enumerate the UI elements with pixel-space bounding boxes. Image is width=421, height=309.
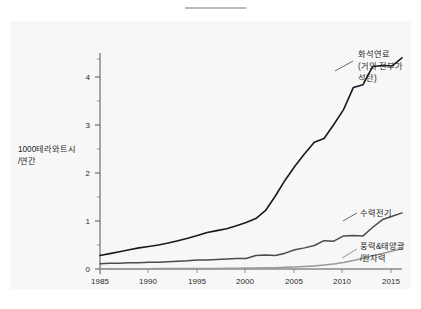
y-tick-label-3: 3: [86, 121, 91, 130]
y-tick-label-1: 1: [86, 217, 91, 226]
leader-line-wind-solar: [342, 249, 357, 258]
annotation-fossil-fuel: 화석연료 (거의 전부가 석탄): [358, 49, 403, 83]
series-line-fossil-fuel: [100, 58, 402, 256]
leader-line-hydroelectric: [343, 213, 357, 221]
chart-series-group: [100, 58, 402, 269]
x-tick-label-1990: 1990: [139, 277, 157, 286]
y-axis-title: 1000테라와트시 /연간: [18, 144, 76, 166]
x-axis-tick-labels: 1985 1990 1995 2000 2005 2010 2015: [91, 277, 400, 286]
line-chart: 0 1 2 3 4 1985 1990 1995 2000: [10, 21, 411, 289]
x-tick-label-1985: 1985: [91, 277, 109, 286]
chart-figure-panel: 0 1 2 3 4 1985 1990 1995 2000: [10, 21, 411, 289]
y-axis-title-line2: /연간: [18, 156, 36, 166]
annotation-hydroelectric: 수력전기: [360, 208, 392, 218]
y-tick-label-2: 2: [86, 169, 91, 178]
x-tick-label-2005: 2005: [285, 277, 303, 286]
y-tick-label-0: 0: [86, 265, 91, 274]
leader-line-fossil-fuel: [335, 61, 353, 71]
x-tick-label-2010: 2010: [333, 277, 351, 286]
annotation-hydroelectric-line1: 수력전기: [360, 208, 392, 218]
annotation-wind-solar-line2: /원자력: [360, 253, 386, 263]
series-line-wind-solar-nuclear: [100, 249, 402, 269]
annotation-wind-solar-nuclear: 풍력&태양광 /원자력: [360, 241, 405, 263]
x-tick-label-2015: 2015: [382, 277, 400, 286]
y-axis-major-ticks: [95, 77, 100, 269]
chart-axes: [100, 53, 402, 269]
page-root: 0 1 2 3 4 1985 1990 1995 2000: [0, 0, 421, 309]
x-tick-label-1995: 1995: [188, 277, 206, 286]
annotation-fossil-fuel-line3: 석탄): [358, 73, 377, 83]
top-divider-rule: [185, 7, 246, 9]
y-axis-title-line1: 1000테라와트시: [18, 144, 76, 154]
x-axis-ticks: [100, 269, 391, 274]
annotation-fossil-fuel-line1: 화석연료: [358, 49, 390, 59]
annotation-fossil-fuel-line2: (거의 전부가: [358, 61, 403, 71]
y-tick-label-4: 4: [86, 73, 91, 82]
x-tick-label-2000: 2000: [236, 277, 254, 286]
y-axis-tick-labels: 0 1 2 3 4: [86, 73, 91, 274]
annotation-wind-solar-line1: 풍력&태양광: [360, 241, 405, 251]
annotation-leader-lines: [335, 61, 357, 258]
